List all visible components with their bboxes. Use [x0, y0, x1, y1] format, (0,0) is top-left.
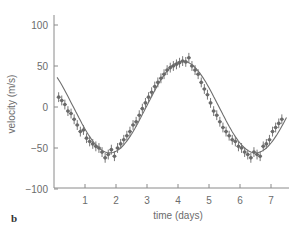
data-point: [178, 58, 182, 68]
data-point: [209, 98, 213, 108]
x-ticks: 1234567: [82, 184, 274, 206]
data-point: [156, 77, 160, 87]
y-tick-label: −50: [31, 143, 48, 154]
y-tick-label: 0: [42, 102, 48, 113]
x-tick-label: 1: [82, 195, 88, 206]
y-axis-title: velocity (m/s): [6, 75, 17, 134]
data-point: [190, 61, 194, 71]
data-point: [69, 109, 73, 119]
data-point: [75, 120, 79, 130]
x-tick-label: 6: [237, 195, 243, 206]
plot-area: [57, 53, 287, 163]
data-point: [205, 90, 209, 100]
data-point: [100, 147, 104, 157]
data-point: [255, 150, 259, 160]
radial-velocity-chart: 100500−50−100 1234567 velocity (m/s) tim…: [0, 0, 296, 235]
data-point: [274, 123, 278, 133]
data-point: [227, 131, 231, 141]
data-point: [230, 135, 234, 145]
data-point: [202, 84, 206, 94]
y-tick-label: 100: [31, 20, 48, 31]
data-point: [81, 125, 85, 135]
data-point: [153, 82, 157, 92]
data-point: [199, 77, 203, 87]
data-point: [224, 127, 228, 137]
x-tick-label: 2: [113, 195, 119, 206]
x-tick-label: 4: [175, 195, 181, 206]
x-axis-title: time (days): [153, 210, 202, 221]
data-point: [78, 127, 82, 137]
data-point: [212, 106, 216, 116]
data-point: [66, 106, 70, 116]
data-point: [196, 69, 200, 79]
data-point: [63, 100, 67, 110]
data-point: [97, 143, 101, 153]
x-tick-label: 3: [144, 195, 150, 206]
x-tick-label: 5: [206, 195, 212, 206]
data-point: [150, 87, 154, 97]
data-point: [168, 63, 172, 73]
data-point: [218, 117, 222, 127]
data-point: [171, 61, 175, 71]
data-point: [221, 123, 225, 133]
data-point: [240, 143, 244, 153]
x-tick-label: 7: [268, 195, 274, 206]
y-tick-label: 50: [37, 61, 49, 72]
data-point: [277, 118, 281, 128]
data-point: [181, 56, 185, 66]
data-point: [215, 110, 219, 120]
data-point: [174, 59, 178, 69]
data-point: [187, 53, 191, 63]
y-tick-label: −100: [25, 184, 48, 195]
data-point: [184, 57, 188, 67]
y-ticks: 100500−50−100: [25, 20, 58, 195]
axes: 100500−50−100 1234567: [25, 15, 289, 206]
data-point: [252, 147, 256, 157]
fit-curve: [57, 61, 286, 153]
panel-label: b: [11, 212, 17, 224]
data-point: [271, 127, 275, 137]
data-point: [72, 114, 76, 124]
data-point: [91, 139, 95, 149]
